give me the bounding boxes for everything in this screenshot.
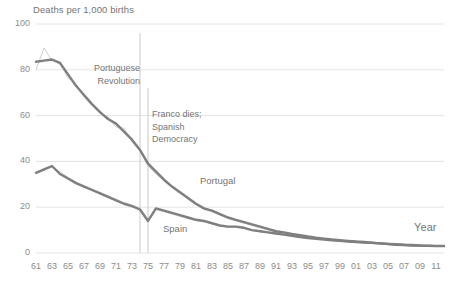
annotation-es-line-2: Spanish: [152, 121, 202, 134]
x-tick-label: 91: [268, 261, 284, 271]
x-tick-label: 05: [380, 261, 396, 271]
x-tick-label: 97: [316, 261, 332, 271]
x-tick-label: 81: [188, 261, 204, 271]
x-tick-label: 69: [92, 261, 108, 271]
x-tick-label: 83: [204, 261, 220, 271]
x-tick-label: 95: [300, 261, 316, 271]
annotation-es-line-3: Democracy: [152, 133, 202, 146]
x-tick-label: 07: [396, 261, 412, 271]
series-line-spain-raw: [36, 167, 444, 246]
y-tick-label: 40: [4, 155, 30, 165]
annotation-pt-line-1: Portuguese: [88, 62, 140, 75]
annotation-es-line-1: Franco dies;: [152, 108, 202, 121]
x-tick-label: 61: [28, 261, 44, 271]
series-line-spain: [36, 166, 444, 246]
x-tick-label: 09: [412, 261, 428, 271]
x-tick-label: 89: [252, 261, 268, 271]
x-tick-label: 71: [108, 261, 124, 271]
x-tick-label: 03: [364, 261, 380, 271]
annotation-portuguese-revolution: Portuguese Revolution: [88, 62, 140, 87]
chart-plot-area: [0, 0, 467, 286]
x-tick-label: 75: [140, 261, 156, 271]
x-tick-label: 99: [332, 261, 348, 271]
x-tick-label: 85: [220, 261, 236, 271]
y-tick-label: 20: [4, 201, 30, 211]
y-tick-label: 60: [4, 110, 30, 120]
x-tick-label: 65: [60, 261, 76, 271]
x-tick-label: 11: [428, 261, 444, 271]
gridlines: [36, 24, 444, 253]
x-tick-label: 63: [44, 261, 60, 271]
x-tick-label: 01: [348, 261, 364, 271]
x-axis-title: Year: [414, 221, 437, 233]
y-tick-label: 80: [4, 64, 30, 74]
x-tick-label: 79: [172, 261, 188, 271]
x-tick-label: 67: [76, 261, 92, 271]
x-tick-label: 93: [284, 261, 300, 271]
x-tick-label: 73: [124, 261, 140, 271]
y-axis-title: Deaths per 1,000 births: [33, 4, 134, 15]
series-label-spain: Spain: [163, 223, 187, 234]
annotation-franco-dies: Franco dies; Spanish Democracy: [152, 108, 202, 146]
x-tick-label: 87: [236, 261, 252, 271]
series-line-portugal: [36, 60, 444, 247]
annotation-pt-line-2: Revolution: [88, 75, 140, 88]
x-tick-label: 77: [156, 261, 172, 271]
infant-mortality-line-chart: Deaths per 1,000 births Year Portuguese …: [0, 0, 467, 286]
y-tick-label: 0: [4, 247, 30, 257]
series-label-portugal: Portugal: [200, 175, 235, 186]
y-tick-label: 100: [4, 18, 30, 28]
